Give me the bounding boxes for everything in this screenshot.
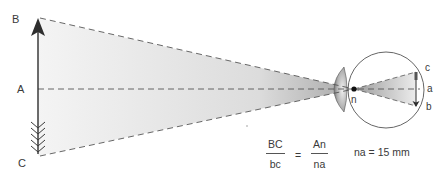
fraction-numerator-An: An: [311, 138, 328, 154]
label-B: B: [12, 14, 19, 25]
fraction-BC-over-bc: BC bc: [266, 138, 285, 170]
speck: [246, 125, 248, 127]
nodal-distance-note: na = 15 mm: [354, 146, 410, 158]
fraction-An-over-na: An na: [311, 138, 328, 170]
label-n: n: [351, 95, 357, 105]
cornea-lens: [334, 67, 347, 112]
equals-sign: =: [295, 149, 301, 161]
label-A: A: [17, 84, 24, 95]
fraction-denominator-na: na: [314, 154, 326, 170]
label-a: a: [427, 84, 433, 94]
nodal-point: [351, 86, 356, 91]
fraction-numerator-BC: BC: [266, 138, 285, 154]
label-C: C: [18, 158, 26, 169]
label-c: c: [425, 63, 430, 73]
label-b: b: [426, 102, 432, 112]
fraction-denominator-bc: bc: [270, 154, 281, 170]
object-light-cone: [38, 18, 354, 156]
